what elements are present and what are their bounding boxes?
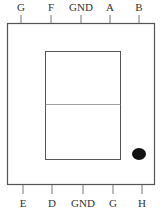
bottom-pin-label: D xyxy=(48,197,56,209)
top-pin-label: G xyxy=(17,1,25,13)
package-outline xyxy=(8,24,155,185)
decimal-point-dot xyxy=(132,148,146,160)
top-pin-label: F xyxy=(48,1,54,13)
bottom-pin-label: E xyxy=(20,197,27,209)
bottom-pins: E D GND G H xyxy=(20,185,146,209)
bottom-pin-label: H xyxy=(138,197,146,209)
display-window xyxy=(46,52,121,160)
top-pin-label: A xyxy=(106,1,114,13)
top-pin-label: B xyxy=(135,1,142,13)
top-pin-label: GND xyxy=(69,1,93,13)
pin-diagram: G F GND A B E D GND G H xyxy=(0,0,161,212)
top-pins: G F GND A B xyxy=(17,1,143,23)
bottom-pin-label: GND xyxy=(71,197,95,209)
bottom-pin-label: G xyxy=(109,197,117,209)
